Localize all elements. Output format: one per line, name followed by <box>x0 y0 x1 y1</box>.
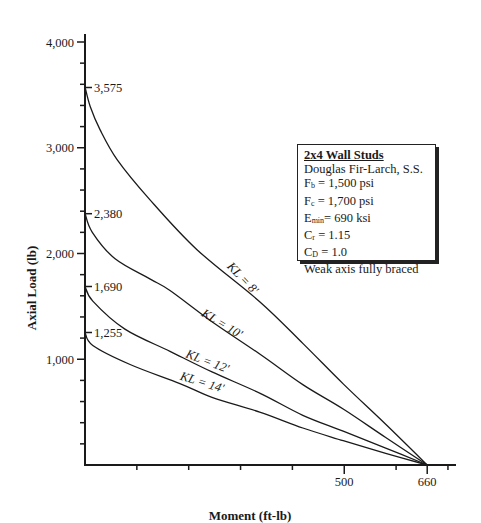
legend-cd: CD = 1.0 <box>304 245 435 262</box>
curve-kl-12 <box>85 286 427 465</box>
x-tick-label-500: 500 <box>335 475 354 489</box>
legend-box: 2x4 Wall Studs Douglas Fir-Larch, S.S. F… <box>297 144 436 261</box>
intercept-label-3575: 3,575 <box>94 81 122 95</box>
intercept-label-1255: 1,255 <box>94 326 122 340</box>
legend-note: Weak axis fully braced <box>304 262 435 276</box>
x-axis-title: Moment (ft-lb) <box>209 508 292 523</box>
intercept-label-1690: 1,690 <box>94 280 122 294</box>
x-tick-label-660: 660 <box>418 475 437 489</box>
y-tick-label-3000: 3,000 <box>46 141 74 155</box>
legend-species: Douglas Fir-Larch, S.S. <box>304 162 435 176</box>
curve-label-kl-8: KL = 8' <box>224 259 262 297</box>
legend-fc: Fc = 1,700 psi <box>304 194 435 211</box>
y-axis-title: Axial Load (lb) <box>24 246 39 331</box>
y-tick-label-2000: 2,000 <box>46 247 74 261</box>
y-tick-label-1000: 1,000 <box>46 353 74 367</box>
legend-fb: Fb = 1,500 psi <box>304 176 435 193</box>
curve-label-kl-10: KL = 10' <box>198 305 245 341</box>
legend-title: 2x4 Wall Studs <box>304 148 435 162</box>
y-tick-label-4000: 4,000 <box>46 36 74 50</box>
legend-cr: Cr = 1.15 <box>304 228 435 245</box>
x-ticks <box>137 465 448 474</box>
y-ticks <box>77 42 85 444</box>
intercept-label-2380: 2,380 <box>94 207 122 221</box>
legend-emin: Emin= 690 ksi <box>304 211 435 228</box>
